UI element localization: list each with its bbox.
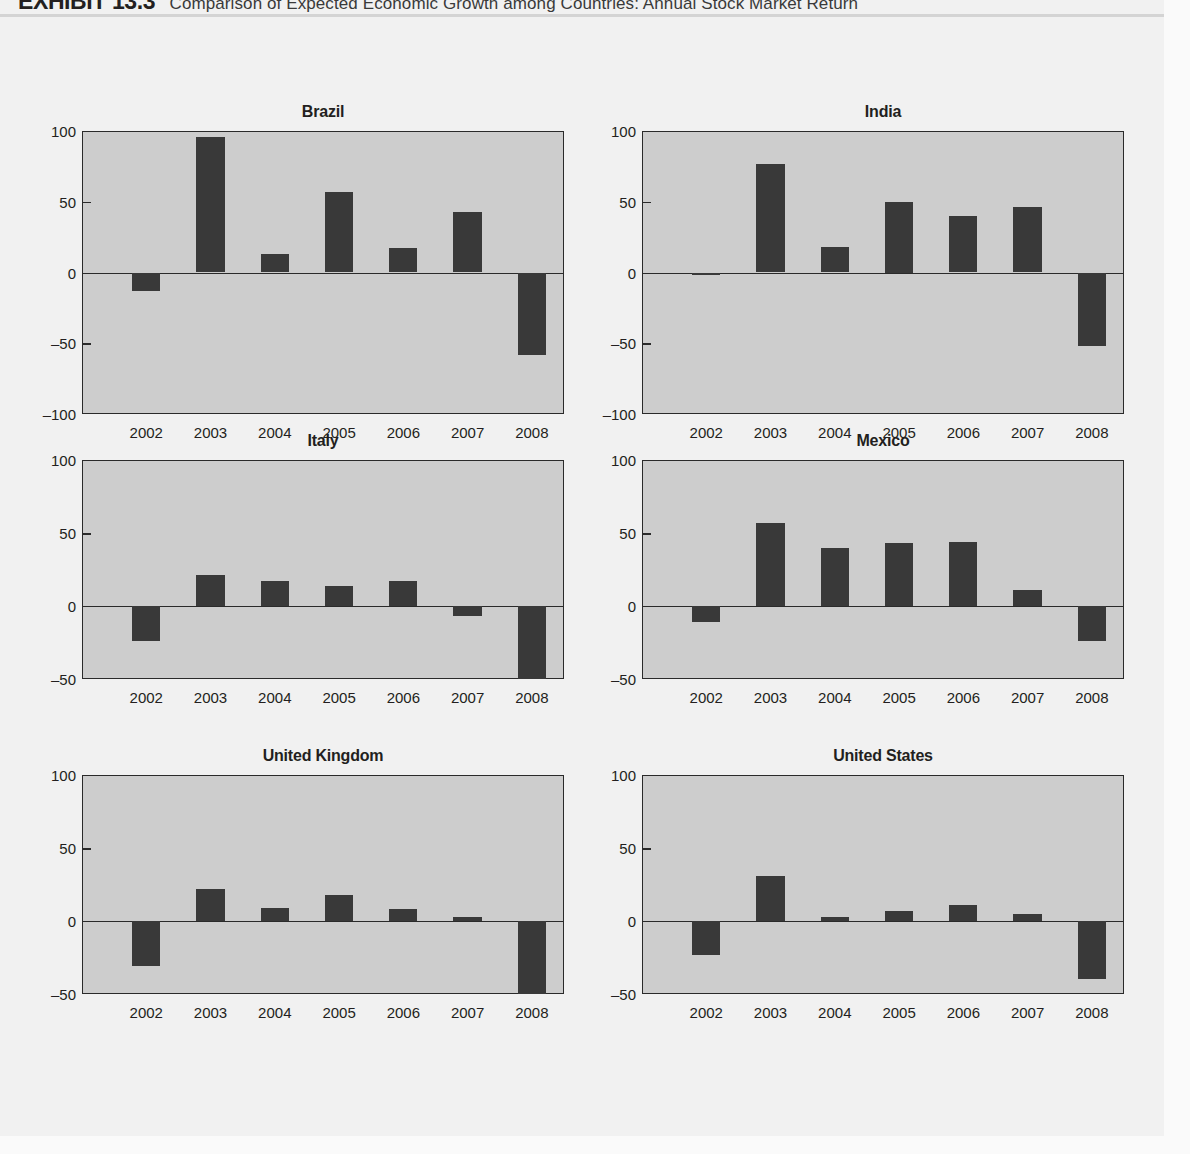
y-axis-tick-label: –100 [598, 406, 636, 423]
x-axis-tick-label: 2007 [451, 689, 484, 706]
bar [132, 606, 160, 641]
bar [692, 273, 720, 276]
bar [389, 909, 417, 921]
x-axis-tick-label: 2003 [194, 689, 227, 706]
plot-area [642, 775, 1124, 994]
bar [1013, 207, 1041, 272]
plot-frame [642, 460, 1124, 679]
y-axis-tick-label: 0 [38, 913, 76, 930]
y-axis-tick-label: 50 [598, 193, 636, 210]
bar [692, 921, 720, 955]
bar [453, 212, 481, 273]
x-axis-tick-label: 2007 [451, 1004, 484, 1021]
x-axis-tick-label: 2002 [130, 1004, 163, 1021]
plot-frame [642, 775, 1124, 994]
bar [325, 895, 353, 921]
y-axis-tick-label: 50 [598, 525, 636, 542]
bar [518, 273, 546, 355]
y-axis-tick-label: –50 [38, 986, 76, 1003]
y-axis-tick-label: 100 [38, 452, 76, 469]
x-axis-tick-label: 2004 [258, 689, 291, 706]
bar [518, 921, 546, 994]
x-axis-tick-label: 2004 [818, 1004, 851, 1021]
bar [1078, 273, 1106, 347]
y-axis-tick-mark [82, 202, 91, 204]
exhibit-title: Comparison of Expected Economic Growth a… [170, 0, 859, 13]
y-axis-tick-label: 100 [38, 123, 76, 140]
x-axis-tick-label: 2006 [387, 689, 420, 706]
chart-panel-united-kingdom: United Kingdom100500–5020022003200420052… [38, 747, 568, 1028]
bar [821, 548, 849, 606]
y-axis-tick-mark [642, 848, 651, 850]
y-axis-tick-label: –100 [38, 406, 76, 423]
plot-area [82, 131, 564, 414]
x-axis-tick-label: 2008 [1075, 1004, 1108, 1021]
x-axis-tick-label: 2004 [258, 1004, 291, 1021]
bar [1013, 590, 1041, 606]
x-axis-tick-label: 2006 [947, 689, 980, 706]
x-axis-tick-label: 2007 [1011, 689, 1044, 706]
y-axis-tick-label: –50 [598, 335, 636, 352]
bar [261, 254, 289, 272]
y-axis-tick-label: 50 [38, 193, 76, 210]
y-axis-tick-label: 50 [598, 840, 636, 857]
chart-title: Brazil [82, 103, 564, 121]
x-axis-tick-label: 2003 [754, 689, 787, 706]
x-axis-tick-label: 2004 [818, 689, 851, 706]
bar [196, 889, 224, 921]
x-axis-tick-label: 2008 [515, 689, 548, 706]
y-axis-tick-mark [82, 848, 91, 850]
y-axis-tick-mark [642, 343, 651, 345]
bar [949, 905, 977, 921]
plot-area [642, 460, 1124, 679]
bar [949, 216, 977, 273]
x-axis-tick-label: 2005 [882, 689, 915, 706]
chart-title: Italy [82, 432, 564, 450]
plot-frame [82, 460, 564, 679]
y-axis-tick-label: 50 [38, 840, 76, 857]
bar [196, 575, 224, 606]
y-axis-tick-label: 0 [38, 264, 76, 281]
x-axis-tick-label: 2006 [387, 1004, 420, 1021]
bar [261, 581, 289, 606]
x-axis-tick-label: 2002 [690, 689, 723, 706]
bar [885, 911, 913, 921]
x-axis-tick-label: 2007 [1011, 1004, 1044, 1021]
y-axis-tick-label: 100 [38, 767, 76, 784]
bar [1013, 914, 1041, 921]
y-axis-tick-label: –50 [598, 671, 636, 688]
bar [518, 606, 546, 679]
bar [389, 248, 417, 272]
paper-edge-bottom [0, 1136, 1190, 1154]
exhibit-label: EXHIBIT 13.3 [18, 0, 155, 14]
bar [132, 921, 160, 966]
chart-panel-united-states: United States100500–50200220032004200520… [598, 747, 1128, 1028]
bar [821, 917, 849, 921]
y-axis-tick-label: –50 [38, 335, 76, 352]
bar [132, 273, 160, 291]
y-axis-tick-label: 100 [598, 123, 636, 140]
x-axis-tick-label: 2003 [194, 1004, 227, 1021]
bar [453, 917, 481, 921]
y-axis-tick-label: 100 [598, 767, 636, 784]
plot-area [642, 131, 1124, 414]
y-axis-tick-label: –50 [598, 986, 636, 1003]
y-axis-tick-label: 0 [598, 913, 636, 930]
bar [196, 137, 224, 273]
x-axis-tick-label: 2005 [322, 1004, 355, 1021]
bar [389, 581, 417, 606]
small-multiples-grid: Brazil100500–50–100200220032004200520062… [0, 17, 1190, 1137]
chart-title: United Kingdom [82, 747, 564, 765]
x-axis-tick-label: 2005 [882, 1004, 915, 1021]
x-axis-tick-label: 2002 [690, 1004, 723, 1021]
bar [325, 192, 353, 273]
chart-title: United States [642, 747, 1124, 765]
y-axis-tick-mark [82, 533, 91, 535]
y-axis-tick-label: 0 [38, 598, 76, 615]
bar [1078, 606, 1106, 641]
bar [949, 542, 977, 606]
x-axis-tick-label: 2008 [1075, 689, 1108, 706]
bar [821, 247, 849, 272]
chart-panel-india: India100500–50–1002002200320042005200620… [598, 103, 1128, 448]
chart-panel-italy: Italy100500–5020022003200420052006200720… [38, 432, 568, 713]
